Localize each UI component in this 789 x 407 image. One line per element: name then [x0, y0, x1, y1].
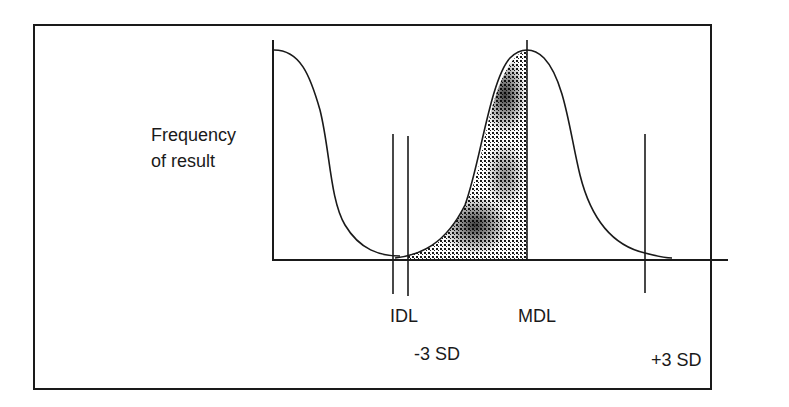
distribution-plot [0, 0, 789, 407]
y-axis-label-line1: Frequency [151, 122, 236, 148]
sample-curve [395, 50, 672, 258]
idl-label: IDL [390, 307, 418, 325]
plus3sd-label: +3 SD [651, 351, 702, 369]
y-axis-label: Frequency of result [151, 122, 236, 174]
minus3sd-label: -3 SD [414, 345, 460, 363]
shaded-region [400, 40, 530, 265]
mdl-label: MDL [518, 307, 556, 325]
y-axis-label-line2: of result [151, 148, 236, 174]
blank-curve [274, 50, 400, 256]
